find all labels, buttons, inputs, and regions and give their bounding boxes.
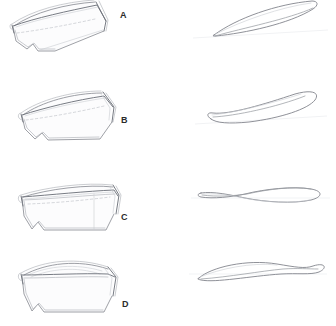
figure-row-c: C [0, 164, 336, 246]
figure-canvas: A [0, 0, 336, 326]
row-label-a: A [120, 11, 127, 20]
row-label-b: B [121, 116, 128, 125]
figure-row-a: A [0, 0, 336, 82]
hull-perspective-view-a [0, 0, 140, 82]
hull-plan-outline-a [185, 0, 336, 82]
figure-row-b: B [0, 82, 336, 164]
hull-plan-outline-d [185, 244, 336, 326]
hull-perspective-view-b [0, 82, 140, 164]
figure-row-d: D [0, 244, 336, 326]
hull-plan-outline-b [185, 82, 336, 164]
hull-perspective-view-d [0, 244, 140, 326]
row-label-d: D [122, 300, 129, 309]
row-label-c: C [121, 213, 128, 222]
hull-plan-outline-c [185, 164, 336, 246]
hull-perspective-view-c [0, 164, 140, 246]
